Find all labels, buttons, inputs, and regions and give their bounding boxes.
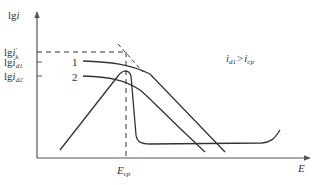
cathodic-curve-2: [83, 76, 205, 152]
cathodic-curve-1: [83, 61, 225, 152]
curve-2-label: 2: [72, 71, 78, 83]
ecp-label: Ecp: [116, 164, 131, 178]
tick-label-lgid1: lgid1: [4, 56, 23, 70]
anodic-curve: [60, 71, 280, 150]
y-axis-label: lgi: [8, 9, 20, 21]
condition-annotation: id1>icp: [226, 52, 254, 66]
diagram-container: lgi lgi′k lgid1 lgid2 1 2 id1>icp Ecp E: [0, 0, 323, 185]
tick-label-lgid2: lgid2: [4, 70, 23, 84]
curve-1-label: 1: [72, 56, 78, 68]
polarization-diagram: lgi lgi′k lgid1 lgid2 1 2 id1>icp Ecp E: [0, 0, 323, 185]
dashed-tafel-line: [118, 44, 143, 72]
x-axis-label: E: [297, 162, 305, 174]
